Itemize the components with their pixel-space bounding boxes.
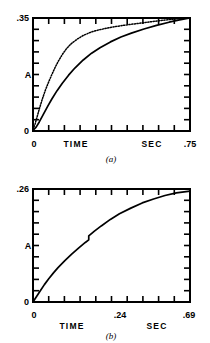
- data-curve-a-solid: [33, 18, 190, 130]
- plot-b-top-ticks: [49, 190, 175, 195]
- x-axis-mid-label-b: .24: [114, 310, 127, 320]
- y-axis-min-label-b: 0: [24, 297, 29, 307]
- plot-b-left-ticks: [34, 200, 39, 290]
- figure-sheet: .35 A 0 0 TIME SEC .75 (a): [0, 0, 210, 343]
- plot-a-left-ticks: [34, 29, 39, 119]
- x-axis-unit-label-a: SEC: [141, 139, 162, 149]
- chart-panel-b: .26 A 0 0 TIME .24 SEC .69 (b): [0, 172, 210, 343]
- plot-b-frame: [33, 189, 190, 302]
- plot-b-svg: .26 A 0 0 TIME .24 SEC .69 (b): [0, 172, 210, 343]
- y-axis-label-b: A: [25, 241, 32, 251]
- y-axis-max-label-b: .26: [16, 184, 29, 194]
- x-axis-name-label-a: TIME: [63, 139, 88, 149]
- panel-caption-b: (b): [106, 331, 117, 341]
- x-axis-max-label-b: .69: [183, 310, 196, 320]
- plot-a-right-ticks: [184, 29, 189, 119]
- x-axis-origin-label-a: 0: [31, 139, 36, 149]
- x-axis-unit-label-b: SEC: [146, 321, 167, 331]
- data-curve-a-dotted: [33, 18, 190, 129]
- plot-a-bottom-ticks: [49, 125, 175, 130]
- panel-caption-a: (a): [106, 154, 117, 164]
- plot-b-bottom-ticks: [49, 296, 175, 301]
- x-axis-origin-label-b: 0: [31, 310, 36, 320]
- data-curve-b: [33, 191, 190, 302]
- chart-panel-a: .35 A 0 0 TIME SEC .75 (a): [0, 0, 210, 172]
- y-axis-max-label-a: .35: [16, 13, 29, 23]
- plot-b-right-ticks: [184, 200, 189, 290]
- x-axis-name-label-b: TIME: [59, 321, 84, 331]
- x-axis-max-label-a: .75: [184, 139, 197, 149]
- plot-a-frame: [33, 18, 190, 131]
- y-axis-label-a: A: [25, 70, 32, 80]
- plot-a-svg: .35 A 0 0 TIME SEC .75 (a): [0, 0, 210, 172]
- y-axis-min-label-a: 0: [24, 126, 29, 136]
